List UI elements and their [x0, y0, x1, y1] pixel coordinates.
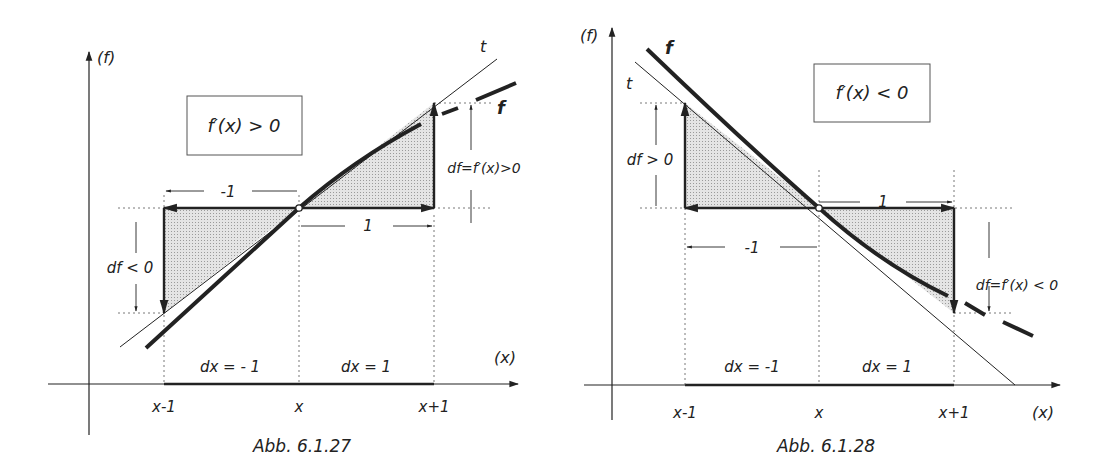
span-right-label: 1	[878, 193, 888, 211]
tick-label-x: x	[294, 398, 304, 416]
df-right-label: df=f′(x) < 0	[976, 277, 1058, 293]
shaded-triangle-left	[164, 208, 299, 313]
condition-text: f′(x) < 0	[835, 82, 908, 103]
figure-left: f′(x) > 0 (f) (x) t f -1 1 df < 0 df=f′(…	[48, 37, 521, 456]
dx-left-label: dx = - 1	[200, 358, 260, 376]
function-label: f	[497, 97, 507, 118]
tangent-line	[120, 59, 497, 347]
tick-label-x: x	[814, 404, 824, 422]
tangent-point	[816, 205, 822, 211]
x-axis-label: (x)	[494, 348, 516, 367]
tangent-point	[296, 205, 302, 211]
tangent-label: t	[626, 74, 633, 93]
df-left-label: df > 0	[627, 151, 673, 169]
condition-text: f′(x) > 0	[207, 115, 280, 136]
tick-label-x-minus-1: x-1	[151, 398, 176, 416]
span-right-label: 1	[363, 217, 373, 235]
tick-label-x-plus-1: x+1	[938, 404, 970, 422]
figure-caption: Abb. 6.1.28	[776, 436, 875, 456]
tick-label-x-minus-1: x-1	[672, 404, 697, 422]
y-axis-label: (f)	[580, 26, 598, 45]
diagram-canvas: f′(x) > 0 (f) (x) t f -1 1 df < 0 df=f′(…	[0, 0, 1113, 461]
function-curve-dashed	[965, 303, 1033, 336]
dx-left-label: dx = -1	[724, 358, 779, 376]
dx-right-label: dx = 1	[341, 358, 391, 376]
tangent-label: t	[480, 37, 487, 56]
df-left-label: df < 0	[107, 259, 153, 277]
dx-right-label: dx = 1	[862, 358, 912, 376]
span-left-label: -1	[221, 183, 236, 201]
function-label: f	[665, 37, 675, 58]
tick-label-x-plus-1: x+1	[418, 398, 450, 416]
df-right-label: df=f′(x)>0	[447, 160, 521, 176]
figure-right: f′(x) < 0 (f) (x) t f -1 1 df > 0 df=f′(…	[580, 26, 1060, 456]
span-left-label: -1	[745, 239, 760, 257]
function-curve-dashed	[442, 83, 516, 114]
figure-caption: Abb. 6.1.27	[252, 436, 351, 456]
x-axis-label: (x)	[1032, 403, 1054, 422]
y-axis-label: (f)	[97, 48, 115, 67]
